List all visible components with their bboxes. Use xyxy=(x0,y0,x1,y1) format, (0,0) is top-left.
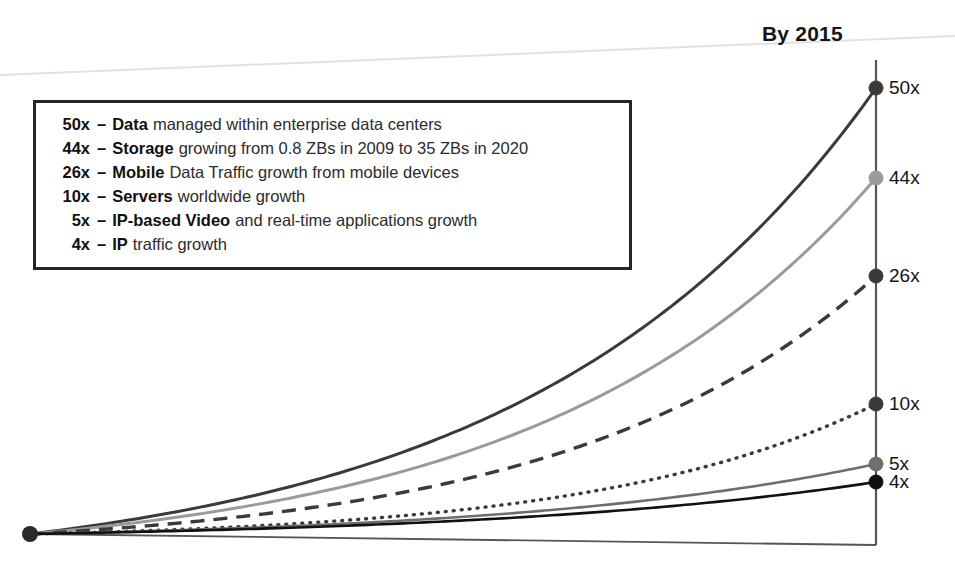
chart-canvas: By 2015 50x – Data managed within enterp… xyxy=(0,0,955,567)
legend-multiplier: 5x xyxy=(46,211,90,230)
legend-item: 50x – Data managed within enterprise dat… xyxy=(36,115,629,139)
legend-separator: – xyxy=(90,163,112,182)
axis-value-label-44x: 44x xyxy=(889,167,920,189)
legend-description: and real-time applications growth xyxy=(230,211,477,230)
origin-marker xyxy=(22,526,38,542)
legend-separator: – xyxy=(90,211,112,230)
legend-term: IP xyxy=(112,235,128,254)
axis-value-label-10x: 10x xyxy=(889,393,920,415)
endpoint-marker-26x xyxy=(869,269,883,283)
legend-term: Mobile xyxy=(112,163,164,182)
axis-value-label-50x: 50x xyxy=(889,77,920,99)
axis-value-label-26x: 26x xyxy=(889,265,920,287)
legend-item: 5x – IP-based Video and real-time applic… xyxy=(36,211,629,235)
legend-description: Data Traffic growth from mobile devices xyxy=(164,163,458,182)
chart-title: By 2015 xyxy=(762,22,843,46)
growth-curves-plot xyxy=(0,0,955,567)
legend-term: Data xyxy=(112,115,148,134)
legend-item: 10x – Servers worldwide growth xyxy=(36,187,629,211)
legend-term: IP-based Video xyxy=(112,211,230,230)
curve-26x xyxy=(30,276,876,534)
legend-multiplier: 50x xyxy=(46,115,90,134)
legend-item: 4x – IP traffic growth xyxy=(36,235,629,259)
axis-value-label-4x: 4x xyxy=(889,471,909,493)
endpoint-marker-44x xyxy=(869,171,883,185)
legend-item: 44x – Storage growing from 0.8 ZBs in 20… xyxy=(36,139,629,163)
legend-multiplier: 4x xyxy=(46,235,90,254)
legend-item: 26x – Mobile Data Traffic growth from mo… xyxy=(36,163,629,187)
legend-term: Servers xyxy=(112,187,173,206)
legend-separator: – xyxy=(90,139,112,158)
legend-multiplier: 44x xyxy=(46,139,90,158)
endpoint-marker-10x xyxy=(869,397,883,411)
legend-description: traffic growth xyxy=(128,235,227,254)
legend-separator: – xyxy=(90,187,112,206)
legend-separator: – xyxy=(90,115,112,134)
baseline-axis xyxy=(30,534,876,545)
legend-separator: – xyxy=(90,235,112,254)
legend-term: Storage xyxy=(112,139,173,158)
legend-multiplier: 26x xyxy=(46,163,90,182)
legend-box: 50x – Data managed within enterprise dat… xyxy=(33,100,632,270)
legend-multiplier: 10x xyxy=(46,187,90,206)
endpoint-marker-5x xyxy=(869,457,883,471)
endpoint-marker-50x xyxy=(869,81,883,95)
endpoint-marker-4x xyxy=(869,475,883,489)
legend-description: worldwide growth xyxy=(173,187,305,206)
legend-description: growing from 0.8 ZBs in 2009 to 35 ZBs i… xyxy=(174,139,528,158)
legend-description: managed within enterprise data centers xyxy=(148,115,442,134)
